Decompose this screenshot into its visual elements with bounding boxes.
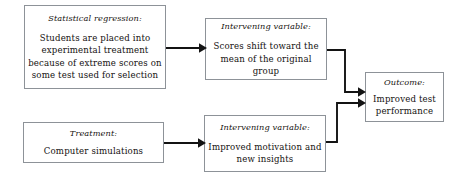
box-outcome-body: Improved test performance	[369, 94, 440, 118]
box-intervening-variable-regression-heading: Intervening variable:	[221, 21, 311, 31]
box-outcome: Outcome: Improved test performance	[365, 72, 444, 122]
box-treatment-heading: Treatment:	[70, 128, 117, 138]
arrow-regression-to-intervening	[166, 43, 207, 53]
diagram-canvas: Statistical regression: Students are pla…	[0, 0, 459, 180]
box-treatment-body: Computer simulations	[44, 145, 143, 157]
arrow-intervening-regression-to-outcome	[327, 50, 366, 97]
box-statistical-regression-body: Students are placed into experimental tr…	[28, 32, 162, 81]
box-statistical-regression-heading: Statistical regression:	[48, 13, 142, 23]
box-intervening-variable-treatment-heading: Intervening variable:	[220, 122, 310, 132]
box-intervening-variable-regression: Intervening variable: Scores shift towar…	[205, 18, 327, 80]
arrow-intervening-treatment-to-outcome	[326, 98, 366, 142]
box-intervening-variable-treatment: Intervening variable: Improved motivatio…	[204, 115, 326, 172]
arrow-treatment-to-intervening	[164, 138, 206, 148]
box-statistical-regression: Statistical regression: Students are pla…	[24, 5, 166, 89]
box-outcome-heading: Outcome:	[384, 77, 425, 87]
box-treatment: Treatment: Computer simulations	[23, 122, 164, 163]
box-intervening-variable-regression-body: Scores shift toward the mean of the orig…	[209, 40, 323, 77]
box-intervening-variable-treatment-body: Improved motivation and new insights	[208, 141, 322, 165]
